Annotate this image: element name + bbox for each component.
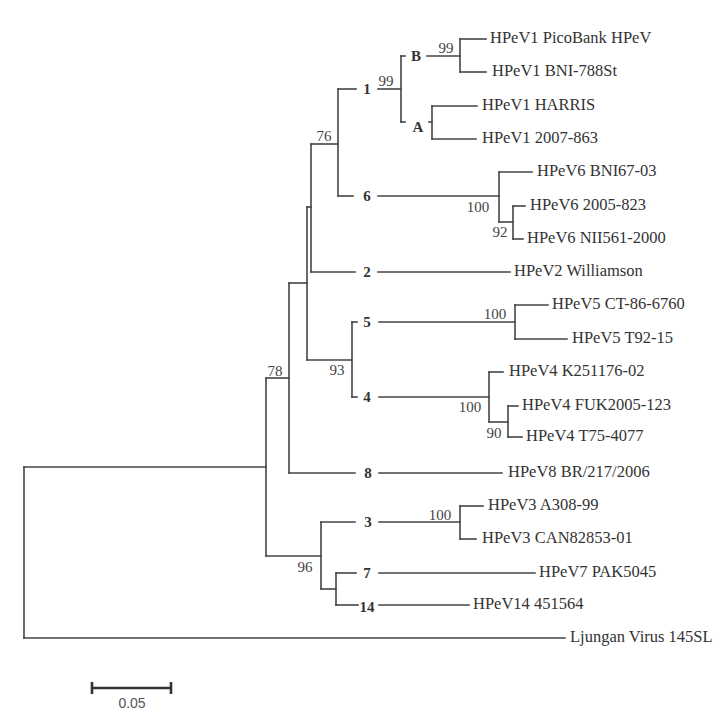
leaf-label: HPeV6 2005-823 bbox=[530, 195, 646, 214]
bootstrap-value: 78 bbox=[268, 363, 283, 379]
leaf-label: HPeV1 2007-863 bbox=[482, 128, 598, 147]
bootstrap-value: 100 bbox=[459, 399, 482, 415]
bootstrap-value: 99 bbox=[439, 40, 454, 56]
leaf-labels: HPeV1 PicoBank HPeV HPeV1 BNI-788St HPeV… bbox=[473, 28, 713, 646]
leaf-label: HPeV5 T92-15 bbox=[572, 328, 673, 347]
bootstrap-value: 92 bbox=[493, 224, 508, 240]
leaf-label: HPeV4 K251176-02 bbox=[509, 361, 645, 380]
scale-bar-label: 0.05 bbox=[118, 695, 145, 711]
clade-label-6: 6 bbox=[363, 188, 371, 204]
clade-labels: 1 B A 6 2 5 4 8 3 7 14 bbox=[360, 48, 424, 615]
bootstrap-value: 100 bbox=[429, 507, 452, 523]
clade-label-14: 14 bbox=[360, 599, 376, 615]
leaf-label: HPeV6 NII561-2000 bbox=[527, 228, 666, 247]
bootstrap-value: 90 bbox=[487, 425, 502, 441]
clade-label-5: 5 bbox=[363, 314, 371, 330]
leaf-label: HPeV1 BNI-788St bbox=[492, 61, 618, 80]
clade-label-4: 4 bbox=[363, 389, 371, 405]
scale-bar: 0.05 bbox=[92, 682, 171, 711]
clade-label-7: 7 bbox=[363, 565, 371, 581]
phylogenetic-tree-figure: HPeV1 PicoBank HPeV HPeV1 BNI-788St HPeV… bbox=[0, 0, 728, 725]
leaf-label: Ljungan Virus 145SL bbox=[570, 627, 713, 646]
bootstrap-value: 100 bbox=[467, 199, 490, 215]
clade-label-3: 3 bbox=[364, 514, 372, 530]
leaf-label: HPeV4 T75-4077 bbox=[526, 426, 643, 445]
bootstrap-value: 76 bbox=[317, 128, 333, 144]
leaf-label: HPeV7 PAK5045 bbox=[539, 562, 656, 581]
leaf-label: HPeV3 CAN82853-01 bbox=[482, 528, 633, 547]
leaf-label: HPeV3 A308-99 bbox=[488, 495, 598, 514]
leaf-label: HPeV14 451564 bbox=[473, 594, 583, 613]
leaf-label: HPeV1 HARRIS bbox=[482, 95, 595, 114]
clade-label-8: 8 bbox=[364, 465, 372, 481]
bootstrap-value: 93 bbox=[330, 362, 345, 378]
clade-label-b: B bbox=[411, 48, 421, 64]
leaf-label: HPeV2 Williamson bbox=[514, 261, 643, 280]
leaf-label: HPeV1 PicoBank HPeV bbox=[490, 28, 651, 47]
leaf-label: HPeV8 BR/217/2006 bbox=[508, 462, 650, 481]
leaf-label: HPeV4 FUK2005-123 bbox=[522, 395, 671, 414]
leaf-label: HPeV5 CT-86-6760 bbox=[552, 294, 685, 313]
clade-label-2: 2 bbox=[363, 264, 371, 280]
bootstrap-values: 99 99 76 100 92 100 93 100 90 78 100 96 bbox=[268, 40, 508, 575]
bootstrap-value: 96 bbox=[298, 559, 314, 575]
clade-label-a: A bbox=[413, 119, 424, 135]
clade-label-1: 1 bbox=[363, 81, 371, 97]
leaf-label: HPeV6 BNI67-03 bbox=[537, 161, 657, 180]
bootstrap-value: 99 bbox=[379, 73, 394, 89]
bootstrap-value: 100 bbox=[484, 306, 507, 322]
